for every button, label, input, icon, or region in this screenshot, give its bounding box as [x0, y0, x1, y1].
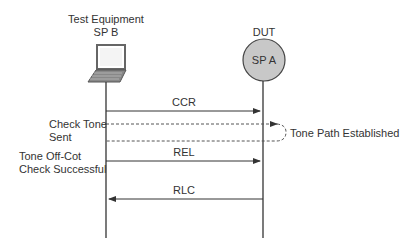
cot-success-note: Tone Off-Cot Check Successful	[19, 150, 106, 176]
tone-path-label: Tone Path Established	[290, 127, 399, 140]
rlc-label: RLC	[164, 184, 204, 197]
sp-b-title-line2: SP B	[56, 26, 156, 39]
check-tone-line2: Sent	[49, 131, 107, 144]
tone-loopback	[106, 124, 286, 141]
check-tone-note: Check Tone Sent	[49, 118, 107, 144]
rel-label: REL	[164, 146, 204, 159]
cot-success-line1: Tone Off-Cot	[19, 150, 106, 163]
sp-b-title-line1: Test Equipment	[56, 13, 156, 26]
sp-b-title: Test Equipment SP B	[56, 13, 156, 39]
laptop-icon	[88, 45, 126, 82]
check-tone-line1: Check Tone	[49, 118, 107, 131]
ccr-label: CCR	[164, 96, 204, 109]
cot-success-line2: Check Successful	[19, 163, 106, 176]
dut-title: DUT	[244, 26, 284, 39]
dut-node-label: SP A	[244, 54, 284, 67]
